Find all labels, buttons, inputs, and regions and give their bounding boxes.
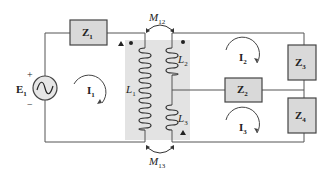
dot-mark-l2 bbox=[181, 40, 185, 44]
z3-label: Z3 bbox=[295, 57, 306, 71]
i2-label: I2 bbox=[239, 52, 247, 66]
z4-label: Z4 bbox=[295, 110, 306, 124]
dot-mark-l1 bbox=[129, 41, 133, 45]
e1-label: E1 bbox=[16, 84, 27, 98]
m13-label: M13 bbox=[149, 156, 165, 170]
plus-sign: + bbox=[27, 70, 33, 80]
i3-label: I3 bbox=[239, 122, 247, 136]
minus-sign: − bbox=[27, 100, 33, 110]
m12-label: M12 bbox=[149, 12, 165, 26]
l3-label: L3 bbox=[178, 113, 188, 127]
circuit-diagram bbox=[0, 0, 330, 175]
z2-label: Z2 bbox=[237, 84, 248, 98]
impedance-boxes bbox=[70, 20, 316, 133]
l1-label: L1 bbox=[126, 84, 136, 98]
z1-label: Z1 bbox=[82, 27, 93, 41]
l2-label: L2 bbox=[178, 54, 188, 68]
triangle-mark-l1 bbox=[118, 41, 124, 46]
i1-label: I1 bbox=[87, 85, 95, 99]
